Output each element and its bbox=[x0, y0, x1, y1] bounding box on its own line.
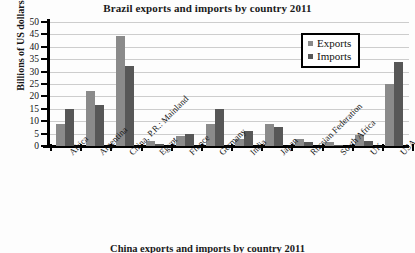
y-axis-label: Billions of US dollars bbox=[15, 0, 26, 106]
legend-swatch-exports-icon bbox=[308, 41, 313, 46]
chart-page: Brazil exports and imports by country 20… bbox=[0, 0, 415, 253]
y-tick-label: 45 bbox=[17, 29, 39, 39]
bar-imports bbox=[65, 109, 74, 146]
chart-title: Brazil exports and imports by country 20… bbox=[0, 2, 415, 14]
y-tick-label: 0 bbox=[17, 141, 39, 151]
bottom-caption: China exports and imports by country 201… bbox=[0, 243, 415, 253]
bar-imports bbox=[394, 62, 403, 146]
y-tick-label: 5 bbox=[17, 129, 39, 139]
legend-label-imports: Imports bbox=[317, 50, 351, 63]
bar-group bbox=[259, 22, 289, 146]
legend-swatch-imports-icon bbox=[308, 54, 313, 59]
bar-group bbox=[230, 22, 260, 146]
bar-exports bbox=[56, 124, 65, 146]
bar-imports bbox=[215, 109, 224, 146]
y-tick-label: 25 bbox=[17, 79, 39, 89]
bar-group bbox=[170, 22, 200, 146]
legend-item-imports: Imports bbox=[308, 50, 351, 63]
x-axis-labels: AfricaArgentinaChina, P.R.: MainlandEgyp… bbox=[47, 150, 409, 240]
y-tick-label: 20 bbox=[17, 91, 39, 101]
legend-label-exports: Exports bbox=[317, 37, 351, 50]
bar-imports bbox=[95, 105, 104, 146]
y-tick-label: 50 bbox=[17, 17, 39, 27]
bar-group bbox=[200, 22, 230, 146]
y-tick-label: 30 bbox=[17, 67, 39, 77]
legend-item-exports: Exports bbox=[308, 37, 351, 50]
bar-group bbox=[50, 22, 80, 146]
y-tick-label: 15 bbox=[17, 104, 39, 114]
chart-legend: Exports Imports bbox=[301, 33, 360, 68]
y-tick-label: 10 bbox=[17, 116, 39, 126]
y-tick-label: 35 bbox=[17, 54, 39, 64]
y-tick-label: 40 bbox=[17, 42, 39, 52]
bar-exports bbox=[385, 84, 394, 146]
bar-group bbox=[379, 22, 409, 146]
bar-group bbox=[80, 22, 110, 146]
